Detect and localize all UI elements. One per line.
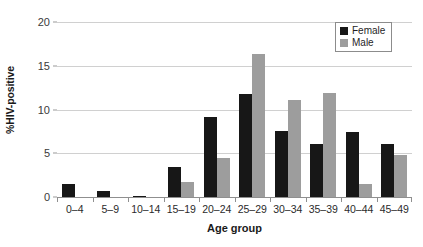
x-tick-label: 25–29 (235, 203, 271, 215)
x-tick (57, 197, 93, 202)
bar-group (235, 22, 271, 197)
x-tick-label: 15–19 (164, 203, 200, 215)
bar-male-15-19 (181, 182, 194, 197)
hiv-prevalence-bar-chart: %HIV-positive 05101520 0–45–910–1415–192… (0, 0, 423, 247)
bar-female-35-39 (310, 144, 323, 197)
x-tick-label: 10–14 (128, 203, 164, 215)
y-tick-label: 15 (38, 60, 50, 72)
x-tick-label: 20–24 (199, 203, 235, 215)
y-tick-label: 0 (44, 191, 50, 203)
legend-label: Female (352, 26, 385, 36)
y-axis-title: %HIV-positive (2, 0, 18, 200)
male-swatch-icon (340, 39, 348, 47)
bar-female-30-34 (275, 131, 288, 197)
x-tick (235, 197, 271, 202)
y-tick-label: 5 (44, 147, 50, 159)
bar-female-20-24 (204, 117, 217, 197)
x-tick-label: 35–39 (306, 203, 342, 215)
x-tick (164, 197, 200, 202)
bar-female-15-19 (168, 167, 181, 197)
x-tick (199, 197, 235, 202)
x-axis-ticks (57, 197, 412, 202)
x-tick (270, 197, 306, 202)
x-axis-tick-labels: 0–45–910–1415–1920–2425–2930–3435–3940–4… (57, 203, 412, 215)
x-tick (93, 197, 129, 202)
bar-male-20-24 (217, 158, 230, 197)
x-tick (306, 197, 342, 202)
bar-group (164, 22, 200, 197)
x-axis-title: Age group (57, 222, 412, 234)
female-swatch-icon (340, 27, 348, 35)
x-tick-label: 30–34 (270, 203, 306, 215)
y-tick-label: 20 (38, 16, 50, 28)
x-tick (341, 197, 377, 202)
bar-group (270, 22, 306, 197)
bar-male-30-34 (288, 100, 301, 197)
x-tick-label: 0–4 (57, 203, 93, 215)
legend: FemaleMale (335, 22, 392, 52)
bar-group (199, 22, 235, 197)
bar-group (93, 22, 129, 197)
y-tick-label: 10 (38, 104, 50, 116)
x-tick-label: 45–49 (377, 203, 413, 215)
bar-female-40-44 (346, 132, 359, 197)
bar-female-45-49 (381, 144, 394, 197)
x-tick-label: 40–44 (341, 203, 377, 215)
y-axis-title-text: %HIV-positive (4, 66, 16, 134)
legend-label: Male (352, 38, 374, 48)
legend-item-male[interactable]: Male (340, 38, 385, 48)
x-tick (128, 197, 164, 202)
x-tick (377, 197, 413, 202)
legend-item-female[interactable]: Female (340, 26, 385, 36)
bar-group (57, 22, 93, 197)
bar-male-40-44 (359, 184, 372, 197)
bar-female-25-29 (239, 94, 252, 197)
bar-male-25-29 (252, 54, 265, 197)
bar-male-45-49 (394, 155, 407, 197)
bar-group (128, 22, 164, 197)
bar-male-35-39 (323, 93, 336, 197)
bar-female-0-4 (62, 184, 75, 197)
x-tick-label: 5–9 (93, 203, 129, 215)
